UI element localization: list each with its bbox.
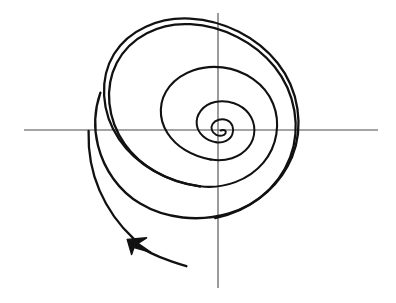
figure-background [0,0,396,303]
figure-canvas: Hand-drawn outward spiral with coordinat… [0,0,396,303]
spiral-diagram-svg: Hand-drawn outward spiral with coordinat… [0,0,396,303]
